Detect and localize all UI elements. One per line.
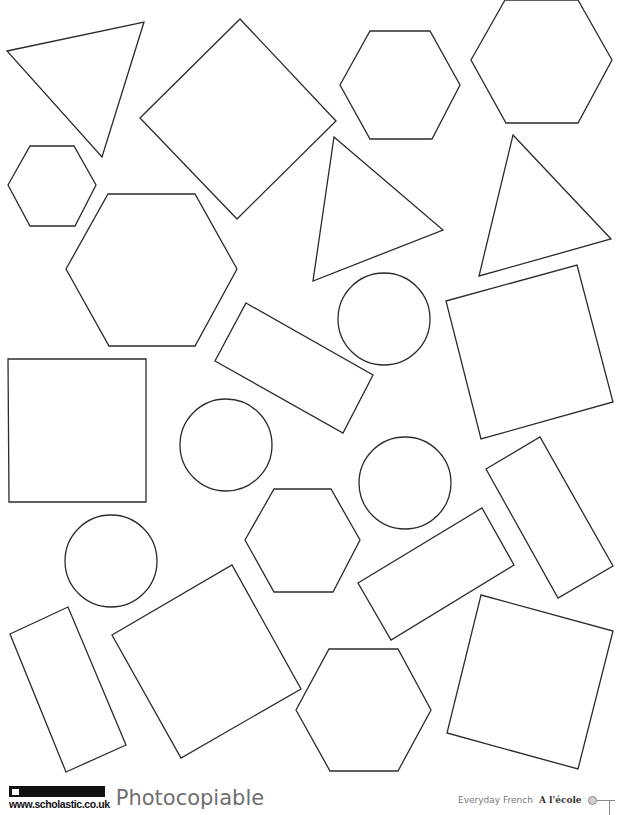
circle-lower-left-shape	[65, 515, 157, 607]
page-marker-icon	[588, 796, 597, 805]
marker-line	[597, 800, 615, 801]
shapes-canvas	[0, 0, 621, 815]
hexagon-small-left-shape	[8, 146, 96, 226]
square-rotated-top-shape	[140, 19, 336, 219]
triangle-middle-shape	[313, 137, 443, 281]
rectangle-right-vertical-shape	[486, 437, 613, 598]
hexagon-large-left-shape	[66, 194, 237, 346]
hexagon-top-right-shape	[471, 0, 612, 123]
triangle-right-shape	[479, 135, 611, 276]
circle-middle-right-shape	[359, 437, 451, 529]
photocopiable-label: Photocopiable	[116, 786, 264, 810]
square-rotated-bottom-right-shape	[447, 595, 613, 769]
topic-title: A l'école	[539, 795, 582, 805]
footer-branding: SCHOLASTIC www.scholastic.co.uk Photocop…	[9, 786, 264, 810]
brand-url: www.scholastic.co.uk	[9, 798, 110, 810]
circle-middle-left-shape	[180, 399, 272, 491]
hexagon-bottom-shape	[296, 649, 431, 771]
series-title: Everyday French	[458, 795, 533, 805]
triangle-top-left-shape	[7, 22, 144, 157]
rectangle-lower-left-shape	[10, 607, 126, 772]
square-left-shape	[8, 359, 146, 502]
book-icon	[12, 789, 19, 795]
hexagon-center-shape	[245, 489, 360, 592]
square-right-upper-shape	[446, 265, 613, 439]
hexagon-top-middle-shape	[340, 31, 460, 139]
scholastic-logo: SCHOLASTIC www.scholastic.co.uk	[9, 786, 110, 810]
marker-drop-line	[609, 800, 610, 815]
footer-series-info: Everyday French A l'école	[458, 795, 615, 805]
circle-upper-middle-shape	[338, 273, 430, 365]
scholastic-badge: SCHOLASTIC	[9, 786, 105, 797]
